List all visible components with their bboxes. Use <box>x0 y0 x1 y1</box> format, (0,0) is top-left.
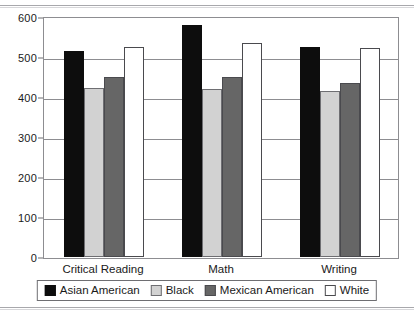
bar-chart-figure: 0100200300400500600 Critical ReadingMath… <box>0 9 414 303</box>
bar[interactable] <box>84 88 104 257</box>
legend-item[interactable]: White <box>325 284 369 297</box>
bar[interactable] <box>360 48 380 257</box>
legend-label: Mexican American <box>220 284 314 297</box>
legend-swatch-icon <box>45 285 56 296</box>
legend-label: Asian American <box>60 284 140 297</box>
y-axis-tick-label: 600 <box>18 13 37 24</box>
legend-label: Black <box>166 284 194 297</box>
bar-group <box>64 19 144 257</box>
legend-swatch-icon <box>151 285 162 296</box>
x-axis-category-label: Math <box>208 261 234 277</box>
legend-item[interactable]: Mexican American <box>205 284 314 297</box>
bars-container <box>45 19 397 257</box>
bar[interactable] <box>340 83 360 257</box>
y-axis-tick-label: 500 <box>18 53 37 64</box>
page-rule-top <box>0 5 414 6</box>
bar[interactable] <box>222 77 242 257</box>
legend-swatch-icon <box>205 285 216 296</box>
bar[interactable] <box>124 47 144 257</box>
y-axis-tick-label: 200 <box>18 173 37 184</box>
y-axis-tick-label: 100 <box>18 213 37 224</box>
y-axis-tick-label: 300 <box>18 133 37 144</box>
bar-group <box>182 19 262 257</box>
bar[interactable] <box>242 43 262 257</box>
bar[interactable] <box>104 77 124 257</box>
x-axis-category-labels: Critical ReadingMathWriting <box>43 261 399 281</box>
page-rule-bottom-secondary <box>0 309 414 310</box>
page-rule-top-secondary <box>0 7 414 8</box>
x-axis-category-label: Critical Reading <box>62 261 143 277</box>
plot-area <box>43 17 399 259</box>
bar-group <box>300 19 380 257</box>
bar[interactable] <box>320 91 340 257</box>
chart-legend: Asian AmericanBlackMexican AmericanWhite <box>37 280 377 301</box>
page-rule-bottom <box>0 307 414 308</box>
bar[interactable] <box>64 51 84 257</box>
bar[interactable] <box>202 89 222 257</box>
x-axis-category-label: Writing <box>321 261 357 277</box>
y-axis: 0100200300400500600 <box>0 17 43 259</box>
legend-item[interactable]: Asian American <box>45 284 140 297</box>
legend-label: White <box>340 284 369 297</box>
bar[interactable] <box>300 47 320 257</box>
legend-swatch-icon <box>325 285 336 296</box>
legend-item[interactable]: Black <box>151 284 194 297</box>
y-axis-tick-label: 400 <box>18 93 37 104</box>
y-axis-tick-label: 0 <box>31 253 37 264</box>
bar[interactable] <box>182 25 202 257</box>
